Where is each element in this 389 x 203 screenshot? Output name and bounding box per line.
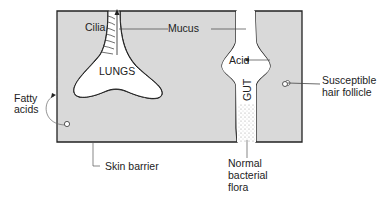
sebaceous-pore [64, 121, 69, 126]
arrow-icon [51, 93, 56, 98]
skin-barrier-leader [93, 143, 100, 166]
label-mucus: Mucus [168, 22, 199, 34]
label-susceptible-2: hair follicle [322, 86, 372, 98]
label-fatty-2: acids [14, 103, 39, 115]
label-acid: Acid [229, 54, 250, 66]
label-cilia: Cilia [85, 21, 106, 33]
label-flora-1: Normal [228, 157, 262, 169]
follicle-pore [283, 82, 288, 87]
label-gut: GUT [241, 78, 253, 101]
body-defenses-diagram: Cilia Mucus LUNGS Acid GUT Fatty acids S… [0, 0, 389, 203]
label-flora-3: flora [228, 181, 249, 193]
label-skin-barrier: Skin barrier [105, 160, 159, 172]
bacterial-flora-stipple [238, 104, 255, 142]
label-lungs: LUNGS [99, 65, 135, 77]
label-flora-2: bacterial [228, 169, 268, 181]
label-susceptible-1: Susceptible [322, 74, 376, 86]
